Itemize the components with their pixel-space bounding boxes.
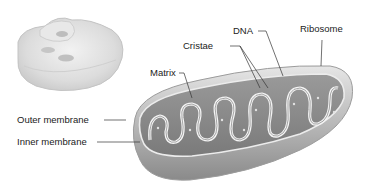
label-inner-membrane: Inner membrane <box>17 137 87 147</box>
label-outer-membrane: Outer membrane <box>17 115 89 125</box>
label-dna: DNA <box>233 26 253 36</box>
label-matrix: Matrix <box>150 68 176 78</box>
label-ribosome: Ribosome <box>300 24 343 34</box>
mitochondrion-diagram: DNA Ribosome Cristae Matrix Outer membra… <box>0 0 370 194</box>
label-cristae: Cristae <box>183 41 213 51</box>
